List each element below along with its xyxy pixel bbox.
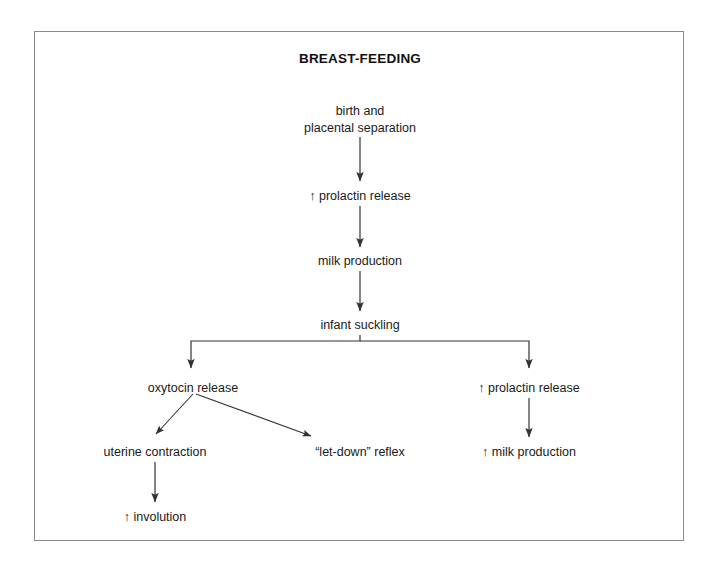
node-uterine-contraction: uterine contraction (104, 444, 207, 460)
node-birth-and-placental-separation: birth and placental separation (304, 103, 416, 137)
figure-canvas: BREAST-FEEDING birth and placental separ… (0, 0, 720, 562)
node-prolactin-release-secondary: ↑ prolactin release (478, 380, 579, 396)
page-title: BREAST-FEEDING (299, 51, 421, 66)
node-infant-suckling: infant suckling (320, 317, 399, 333)
node-involution: ↑ involution (124, 509, 187, 525)
node-milk-production-secondary: ↑ milk production (482, 444, 576, 460)
node-oxytocin-release: oxytocin release (148, 380, 238, 396)
node-birth-line-2: placental separation (304, 120, 416, 137)
node-birth-line-1: birth and (304, 103, 416, 120)
node-prolactin-release-primary: ↑ prolactin release (309, 188, 410, 204)
node-let-down-reflex: “let-down” reflex (315, 444, 405, 460)
node-milk-production-primary: milk production (318, 253, 402, 269)
